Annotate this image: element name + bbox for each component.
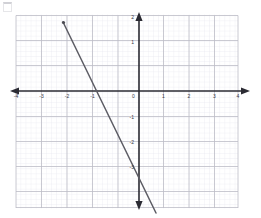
x-tick-label-pos2: 2 — [188, 93, 191, 99]
x-tick-label-neg4: -4 — [14, 93, 19, 99]
x-tick-label-neg3: -3 — [39, 93, 44, 99]
y-tick-label-neg3: -3 — [130, 164, 135, 170]
x-tick-label-pos3: 3 — [213, 93, 216, 99]
x-tick-label-pos1: 1 — [162, 93, 165, 99]
line-endpoint-marker — [62, 21, 65, 24]
x-tick-label-neg2: -2 — [65, 93, 70, 99]
minor-gridlines — [16, 15, 238, 209]
y-tick-label-pos1: 1 — [131, 39, 134, 45]
y-tick-label-pos2: 2 — [131, 14, 134, 20]
y-tick-label-neg2: -2 — [130, 139, 135, 145]
y-tick-label-neg1: -1 — [130, 114, 135, 120]
graph-canvas: -4 -3 -2 -1 0 1 2 3 4 2 1 -1 -2 -3 — [0, 0, 261, 218]
right-arrow-icon — [241, 87, 250, 94]
coordinate-graph: -4 -3 -2 -1 0 1 2 3 4 2 1 -1 -2 -3 — [0, 0, 261, 218]
x-tick-label-pos4: 4 — [237, 93, 240, 99]
x-tick-label-neg1: -1 — [90, 93, 95, 99]
x-tick-label-zero: 0 — [132, 93, 135, 99]
